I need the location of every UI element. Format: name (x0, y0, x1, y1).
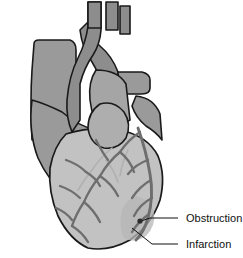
brachiocephalic-branch-icon (88, 2, 101, 28)
anatomy-group (31, 2, 163, 249)
left-subclavian-branch-icon (120, 6, 130, 34)
heart-diagram-svg: Obstruction Infarction (0, 0, 243, 258)
obstruction-marker-icon (137, 218, 142, 223)
heart-illustration-figure: Obstruction Infarction (0, 0, 243, 258)
left-common-carotid-branch-icon (106, 2, 118, 30)
left-atrial-appendage (88, 103, 129, 148)
obstruction-label: Obstruction (186, 212, 242, 224)
infarction-label: Infarction (186, 238, 231, 250)
